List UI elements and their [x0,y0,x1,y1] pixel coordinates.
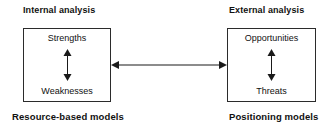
arrow-shaft [117,65,221,66]
weaknesses-label: Weaknesses [24,86,110,96]
strengths-weaknesses-double-arrow-icon [62,49,73,81]
positioning-models-caption: Positioning models [229,111,318,122]
arrow-head-down-icon [268,74,276,81]
internal-analysis-heading: Internal analysis [23,5,95,15]
internal-analysis-box: Strengths Weaknesses [23,28,111,102]
opportunities-threats-double-arrow-icon [266,49,277,81]
resource-based-models-caption: Resource-based models [12,111,124,122]
internal-external-double-arrow-icon [111,59,227,71]
opportunities-label: Opportunities [228,33,315,43]
threats-label: Threats [228,86,315,96]
strengths-label: Strengths [24,33,110,43]
arrow-shaft [271,54,272,76]
arrow-head-right-icon [219,61,227,69]
external-analysis-heading: External analysis [229,5,304,15]
arrow-shaft [67,54,68,76]
arrow-head-down-icon [63,74,71,81]
swot-diagram: Internal analysis External analysis Stre… [0,0,332,130]
external-analysis-box: Opportunities Threats [227,28,316,102]
